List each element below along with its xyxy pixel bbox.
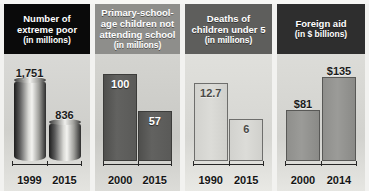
axis-foreign-aid [285,164,357,165]
panel-title-line1: Number of [17,13,77,24]
panel-unit: (in millions) [17,35,77,46]
bar-column-2000: 100 [104,58,136,161]
axis-deaths-children-under-5 [193,164,264,165]
axis-tick-right [171,161,172,166]
panel-foreign-aid: Foreign aid (in $ billions) $81 $135 [277,4,365,191]
bar-group-extreme-poor: 1,751 836 [12,58,82,161]
panel-body-deaths-children-under-5: 12.7 6 1990 2015 [185,54,272,191]
panel-title-line2: age children not [100,18,176,29]
plot-area-children-not-in-school: 100 57 2000 2015 [95,54,180,191]
bar-value-label-2015: 6 [243,123,249,135]
bar-extreme-poor-1999: 1,751 [14,79,46,161]
bar-column-2014: $135 [323,58,355,161]
axis-tick-left [285,161,286,166]
panel-children-not-in-school: Primary-school- age children not attendi… [95,4,180,191]
panel-title-line2: extreme poor [17,24,77,35]
axis-labels-foreign-aid: 2000 2014 [285,174,357,186]
axis-label-2014: 2014 [321,174,357,186]
panel-title-line2: children under 5 [192,24,266,35]
axis-label-2000: 2000 [285,174,321,186]
panel-body-children-not-in-school: 100 57 2000 2015 [95,54,180,191]
axis-label-2000: 2000 [103,174,138,186]
bar-foreign-aid-2000: $81 [286,110,320,161]
bar-column-2015: 57 [139,58,171,161]
panel-title-line1: Deaths of [192,13,266,24]
bar-value-label-2015: 57 [149,115,161,127]
plot-area-deaths-children-under-5: 12.7 6 1990 2015 [185,54,272,191]
panel-header-deaths-children-under-5: Deaths of children under 5 (in millions) [185,4,272,54]
bar-value-label-1999: 1,751 [16,67,44,79]
bar-value-label-2000: 100 [111,78,129,90]
bar-extreme-poor-2015: 836 [49,121,81,161]
axis-tick-center [138,161,139,166]
axis-tick-center [47,161,48,166]
panel-unit: (in millions) [100,40,176,51]
axis-label-1990: 1990 [193,174,229,186]
bar-children-not-in-school-2000: 100 [103,74,137,161]
axis-tick-right [356,161,357,166]
bar-value-label-2015: 836 [55,109,73,121]
axis-tick-center [321,161,322,166]
bar-column-2015: 6 [230,58,262,161]
bar-group-deaths-children-under-5: 12.7 6 [193,58,264,161]
plot-area-foreign-aid: $81 $135 2000 2014 [277,54,365,191]
bar-children-not-in-school-2015: 57 [138,111,172,161]
axis-tick-center [229,161,230,166]
panel-unit: (in millions) [192,35,266,46]
bar-group-foreign-aid: $81 $135 [285,58,357,161]
panel-header-extreme-poor: Number of extreme poor (in millions) [4,4,90,54]
bar-value-label-2000: $81 [294,98,312,110]
bar-column-1990: 12.7 [195,58,227,161]
axis-label-1999: 1999 [12,174,47,186]
panel-title-line3: attending school [100,29,176,40]
panel-deaths-children-under-5: Deaths of children under 5 (in millions)… [185,4,272,191]
infographic-root: · · · Number of extreme poor (in million… [0,0,369,191]
panel-unit: (in $ billions) [295,29,347,40]
panel-extreme-poor: Number of extreme poor (in millions) 1,7… [4,4,90,191]
bar-foreign-aid-2014: $135 [322,77,356,161]
axis-tick-left [12,161,13,166]
axis-tick-right [81,161,82,166]
bar-value-label-1990: 12.7 [200,87,221,99]
axis-tick-right [263,161,264,166]
panel-title-line1: Primary-school- [100,7,176,18]
cropped-top-text-label: · · · [0,0,369,2]
axis-labels-deaths-children-under-5: 1990 2015 [193,174,264,186]
plot-area-extreme-poor: 1,751 836 1999 2015 [4,54,90,191]
axis-children-not-in-school [103,164,172,165]
panel-body-foreign-aid: $81 $135 2000 2014 [277,54,365,191]
panel-header-foreign-aid: Foreign aid (in $ billions) [277,4,365,54]
bar-group-children-not-in-school: 100 57 [103,58,172,161]
panel-body-extreme-poor: 1,751 836 1999 2015 [4,54,90,191]
axis-label-2015: 2015 [229,174,265,186]
axis-tick-left [103,161,104,166]
axis-label-2015: 2015 [47,174,82,186]
axis-extreme-poor [12,164,82,165]
bar-column-2000: $81 [287,58,319,161]
panel-header-children-not-in-school: Primary-school- age children not attendi… [95,4,180,54]
axis-labels-extreme-poor: 1999 2015 [12,174,82,186]
bar-deaths-children-under-5-1990: 12.7 [194,83,228,161]
axis-label-2015: 2015 [138,174,173,186]
bar-value-label-2014: $135 [327,65,351,77]
bar-deaths-children-under-5-2015: 6 [229,119,263,161]
axis-labels-children-not-in-school: 2000 2015 [103,174,172,186]
bar-column-2015: 836 [49,58,81,161]
panel-title-line1: Foreign aid [295,18,347,29]
bar-column-1999: 1,751 [14,58,46,161]
axis-tick-left [193,161,194,166]
